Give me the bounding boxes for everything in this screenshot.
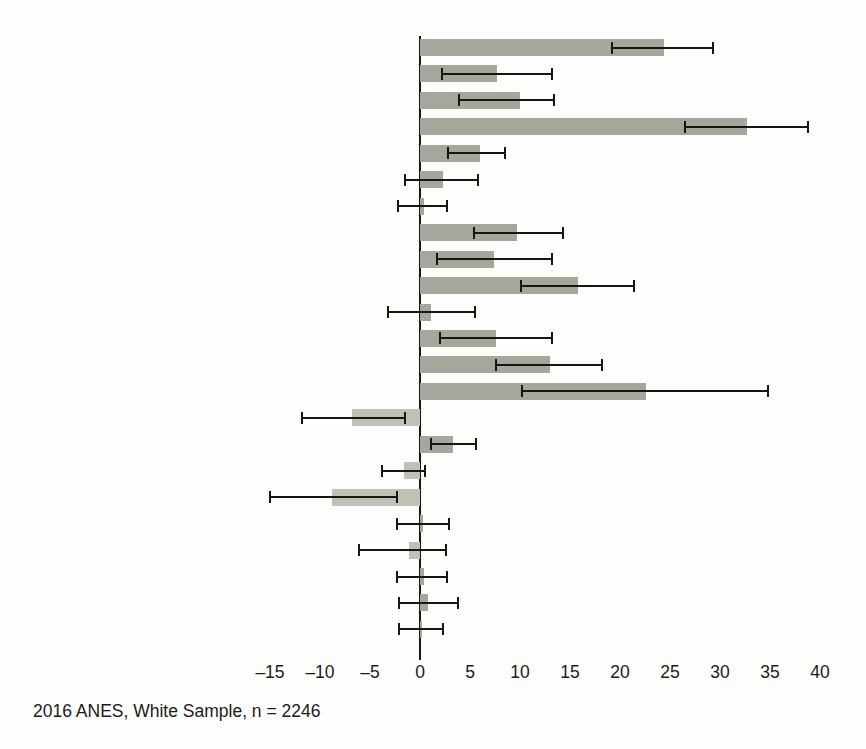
axis-tick-label: 10 (498, 664, 542, 682)
error-bar (397, 523, 449, 525)
axis-tick-label: –15 (248, 664, 292, 682)
error-bar-cap (684, 121, 686, 133)
error-bar-cap (448, 518, 450, 530)
error-bar (496, 364, 602, 366)
error-bar (405, 179, 478, 181)
axis-tick-label: 30 (698, 664, 742, 682)
error-bar-cap (712, 42, 714, 54)
error-bar-cap (474, 306, 476, 318)
axis-tick-label: 0 (398, 664, 442, 682)
error-bar-cap (458, 94, 460, 106)
error-bar-cap (767, 385, 769, 397)
error-bar-cap (439, 332, 441, 344)
error-bar-cap (404, 412, 406, 424)
error-bar-cap (521, 385, 523, 397)
axis-tick-label: 5 (448, 664, 492, 682)
error-bar-cap (475, 438, 477, 450)
figure-caption: 2016 ANES, White Sample, n = 2246 (33, 703, 320, 721)
axis-tick-label: –10 (298, 664, 342, 682)
error-bar-cap (807, 121, 809, 133)
error-bar-cap (301, 412, 303, 424)
error-bar-cap (442, 623, 444, 635)
axis-tick-label: 40 (798, 664, 842, 682)
error-bar-cap (269, 491, 271, 503)
error-bar (442, 73, 552, 75)
error-bar-cap (562, 227, 564, 239)
error-bar-cap (387, 306, 389, 318)
error-bar (388, 311, 475, 313)
axis-tick-label: 35 (748, 664, 792, 682)
axis-tick-label: –5 (348, 664, 392, 682)
error-bar-cap (447, 147, 449, 159)
error-bar-cap (441, 68, 443, 80)
axis-tick-mark (419, 652, 421, 660)
error-bar (440, 337, 552, 339)
error-bar (474, 232, 563, 234)
axis-tick-label: 20 (598, 664, 642, 682)
error-bar (382, 470, 425, 472)
error-bar (399, 602, 458, 604)
error-bar-cap (381, 465, 383, 477)
error-bar (270, 496, 397, 498)
error-bar-cap (430, 438, 432, 450)
error-bar (302, 417, 405, 419)
error-bar-cap (445, 544, 447, 556)
error-bar (399, 628, 443, 630)
error-bar-cap (398, 597, 400, 609)
error-bar (612, 47, 713, 49)
error-bar-cap (398, 623, 400, 635)
error-bar-cap (551, 332, 553, 344)
error-bar-cap (396, 571, 398, 583)
error-bar (448, 152, 505, 154)
error-bar (431, 443, 476, 445)
error-bar-cap (436, 253, 438, 265)
error-bar (398, 205, 447, 207)
chart-plot-area: Tea Party FTTrue American indexHonor our… (0, 0, 866, 749)
figure-root: Tea Party FTTrue American indexHonor our… (0, 0, 866, 749)
error-bar (521, 285, 634, 287)
error-bar-cap (446, 571, 448, 583)
error-bar-cap (396, 518, 398, 530)
axis-tick-label: 25 (648, 664, 692, 682)
error-bar-cap (457, 597, 459, 609)
error-bar (437, 258, 552, 260)
error-bar-cap (633, 280, 635, 292)
error-bar (522, 390, 768, 392)
error-bar-cap (601, 359, 603, 371)
error-bar-cap (495, 359, 497, 371)
error-bar-cap (504, 147, 506, 159)
error-bar-cap (611, 42, 613, 54)
error-bar-cap (397, 200, 399, 212)
error-bar-cap (446, 200, 448, 212)
error-bar-cap (358, 544, 360, 556)
error-bar-cap (477, 174, 479, 186)
error-bar-cap (424, 465, 426, 477)
error-bar-cap (551, 68, 553, 80)
error-bar-cap (551, 253, 553, 265)
error-bar-cap (396, 491, 398, 503)
error-bar (359, 549, 446, 551)
axis-tick-label: 15 (548, 664, 592, 682)
error-bar-cap (553, 94, 555, 106)
error-bar (397, 576, 447, 578)
error-bar-cap (520, 280, 522, 292)
error-bar-cap (404, 174, 406, 186)
error-bar (459, 99, 554, 101)
error-bar-cap (473, 227, 475, 239)
error-bar (685, 126, 808, 128)
